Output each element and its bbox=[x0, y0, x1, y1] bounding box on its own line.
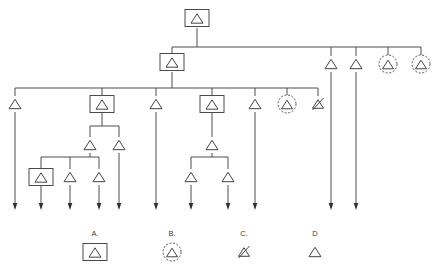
node-l3b-1-type-D-triangle-icon bbox=[185, 172, 197, 181]
node-root-type-A[interactable] bbox=[185, 10, 209, 27]
node-root-branch-3-type-B[interactable] bbox=[379, 55, 397, 73]
hierarchy-diagram: A.B.C.D bbox=[0, 0, 439, 270]
terminal-10-arrowhead bbox=[329, 203, 334, 210]
node-l2-branch-5-type-D-triangle-icon bbox=[249, 99, 261, 108]
legend-group: A.B.C.D bbox=[83, 229, 321, 261]
legend-symbol-B-type-B[interactable] bbox=[163, 243, 181, 261]
node-l3a-right-type-D[interactable] bbox=[113, 140, 125, 149]
diagram-canvas: A.B.C.D bbox=[0, 0, 439, 270]
node-l3a-left-type-D[interactable] bbox=[84, 140, 96, 149]
terminal-4-arrowhead bbox=[97, 203, 102, 210]
legend-label-B: B. bbox=[168, 229, 175, 238]
terminal-7 bbox=[189, 185, 194, 210]
terminal-1-arrowhead bbox=[13, 203, 18, 210]
legend-symbol-A-type-A[interactable] bbox=[83, 244, 107, 261]
node-root-branch-4-type-B[interactable] bbox=[412, 55, 430, 73]
terminal-1 bbox=[13, 112, 18, 210]
node-l3a-right-type-D-triangle-icon bbox=[113, 140, 125, 149]
node-root-branch-2-type-D[interactable] bbox=[350, 59, 362, 68]
node-l4a-2-type-D-triangle-icon bbox=[64, 172, 76, 181]
node-l2-branch-2-type-A[interactable] bbox=[90, 96, 114, 113]
terminal-10 bbox=[329, 72, 334, 210]
node-l4a-3-type-D[interactable] bbox=[93, 172, 105, 181]
legend-symbol-C-type-C[interactable] bbox=[239, 246, 250, 258]
node-l3b-parent-type-D[interactable] bbox=[206, 140, 218, 149]
terminal-3-arrowhead bbox=[68, 203, 73, 210]
node-l2-branch-3-type-D-triangle-icon bbox=[150, 99, 162, 108]
terminal-11-arrowhead bbox=[354, 203, 359, 210]
node-l3b-1-type-D[interactable] bbox=[185, 172, 197, 181]
terminal-8 bbox=[226, 185, 231, 210]
node-l2-branch-1-type-D-triangle-icon bbox=[9, 99, 21, 108]
terminal-7-arrowhead bbox=[189, 203, 194, 210]
node-root-branch-1-type-D[interactable] bbox=[325, 59, 337, 68]
node-l2-branch-5-type-D[interactable] bbox=[249, 99, 261, 108]
node-l2-branch-6-type-B[interactable] bbox=[278, 95, 296, 113]
terminal-8-arrowhead bbox=[226, 203, 231, 210]
terminal-3 bbox=[68, 185, 73, 210]
terminal-5-arrowhead bbox=[117, 203, 122, 210]
node-group bbox=[9, 10, 430, 186]
node-l2-branch-4-type-A[interactable] bbox=[200, 96, 224, 113]
node-l4a-2-type-D[interactable] bbox=[64, 172, 76, 181]
terminal-2 bbox=[39, 185, 44, 210]
terminal-2-arrowhead bbox=[39, 203, 44, 210]
legend-symbol-D-type-D[interactable] bbox=[309, 247, 321, 256]
terminal-9-arrowhead bbox=[253, 203, 258, 210]
node-l4a-1-type-A[interactable] bbox=[29, 169, 53, 186]
terminal-9 bbox=[253, 112, 258, 210]
node-root-branch-2-type-D-triangle-icon bbox=[350, 59, 362, 68]
node-l4a-3-type-D-triangle-icon bbox=[93, 172, 105, 181]
node-l3b-parent-type-D-triangle-icon bbox=[206, 140, 218, 149]
node-l3a-left-type-D-triangle-icon bbox=[84, 140, 96, 149]
node-level2-type-A[interactable] bbox=[160, 54, 184, 71]
node-l3b-2-type-D-triangle-icon bbox=[222, 172, 234, 181]
terminal-5 bbox=[117, 153, 122, 210]
legend-label-C: C. bbox=[240, 229, 248, 238]
terminal-4 bbox=[97, 185, 102, 210]
terminal-group bbox=[13, 72, 359, 210]
terminal-6-arrowhead bbox=[154, 203, 159, 210]
node-l2-branch-1-type-D[interactable] bbox=[9, 99, 21, 108]
node-root-branch-1-type-D-triangle-icon bbox=[325, 59, 337, 68]
node-l3b-2-type-D[interactable] bbox=[222, 172, 234, 181]
legend-symbol-D-type-D-triangle-icon bbox=[309, 247, 321, 256]
legend-label-D: D bbox=[312, 229, 318, 238]
node-l2-branch-7-type-C[interactable] bbox=[313, 98, 324, 110]
legend-label-A: A. bbox=[91, 229, 98, 238]
node-l2-branch-3-type-D[interactable] bbox=[150, 99, 162, 108]
terminal-6 bbox=[154, 112, 159, 210]
terminal-11 bbox=[354, 72, 359, 210]
